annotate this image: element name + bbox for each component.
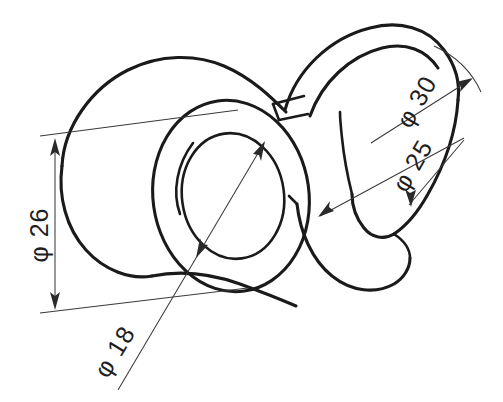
crescent-skirt-join — [394, 234, 410, 258]
dia-30-label: φ 30 — [390, 71, 442, 133]
cylinder-top-silhouette — [62, 57, 286, 166]
dia-26-ext-line-top — [40, 110, 238, 136]
dimension-dia-30: φ 30 — [371, 46, 481, 143]
crescent-lower-skirt — [297, 204, 410, 290]
bore-far-wall-arc — [176, 143, 193, 214]
cylinder-left-endcap — [61, 166, 152, 277]
dia-18-leader-line — [118, 143, 264, 390]
dia-26-label: φ 26 — [25, 208, 53, 263]
neck-lower-edge — [279, 114, 308, 120]
crescent-inner-right-edge — [340, 112, 352, 194]
dimension-dia-25: φ 25 — [318, 135, 464, 217]
technical-drawing-canvas: φ 26 φ 18 φ 30 φ 25 — [0, 0, 503, 402]
ring-crescent-cusp — [289, 196, 297, 204]
dimension-dia-26: φ 26 — [25, 110, 248, 313]
dia-18-label: φ 18 — [88, 321, 140, 383]
crescent-bottom-lobe — [352, 194, 394, 237]
dia-26-ext-line-bottom — [40, 288, 248, 313]
dia-25-arrowhead-lower-left — [318, 201, 334, 217]
ring-outer-ellipse — [140, 90, 321, 302]
